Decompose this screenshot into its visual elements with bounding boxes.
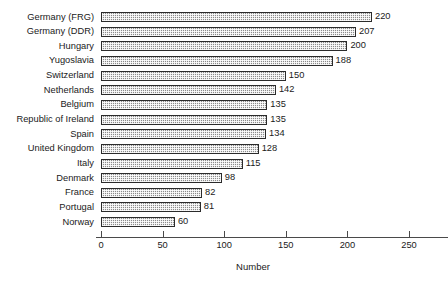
bar-row: 60 — [101, 217, 409, 227]
category-label: France — [0, 187, 94, 197]
bar — [101, 115, 267, 125]
bar-value-label: 135 — [270, 99, 286, 110]
bar — [101, 27, 356, 37]
value-axis-title: Number — [101, 261, 448, 272]
bar — [101, 202, 201, 212]
category-label: Hungary — [0, 41, 94, 51]
bar-value-label: 207 — [359, 26, 375, 37]
category-label: Switzerland — [0, 70, 94, 80]
bar-row: 98 — [101, 173, 409, 183]
category-label: Denmark — [0, 173, 94, 183]
bar-row: 128 — [101, 144, 409, 154]
bar — [101, 71, 286, 81]
bar-row: 135 — [101, 115, 409, 125]
bar-row: 135 — [101, 100, 409, 110]
bar — [101, 129, 266, 139]
axis-tick — [163, 231, 164, 237]
category-label: Italy — [0, 158, 94, 168]
category-label: Germany (FRG) — [0, 12, 94, 22]
bar-row: 115 — [101, 159, 409, 169]
bar-value-label: 128 — [262, 143, 278, 154]
bar-value-label: 98 — [225, 172, 235, 183]
bar — [101, 173, 222, 183]
bar-chart: Germany (FRG)Germany (DDR)HungaryYugosla… — [0, 0, 448, 285]
bar — [101, 188, 202, 198]
plot-area: 2202072001881501421351351341281159882816… — [101, 0, 448, 285]
axis-tick-label: 50 — [143, 240, 183, 251]
category-label: Belgium — [0, 99, 94, 109]
bar-row: 150 — [101, 71, 409, 81]
category-label: United Kingdom — [0, 143, 94, 153]
category-label: Republic of Ireland — [0, 114, 94, 124]
bar — [101, 85, 276, 95]
bar-row: 200 — [101, 41, 409, 51]
axis-tick-label: 0 — [81, 240, 121, 251]
bar — [101, 144, 259, 154]
bar-row: 82 — [101, 188, 409, 198]
axis-tick — [409, 231, 410, 237]
bar — [101, 12, 372, 22]
bar-value-label: 200 — [350, 40, 366, 51]
bar-row: 142 — [101, 85, 409, 95]
axis-tick-label: 250 — [389, 240, 429, 251]
axis-tick-label: 100 — [204, 240, 244, 251]
category-label: Germany (DDR) — [0, 26, 94, 36]
bar — [101, 159, 243, 169]
bar — [101, 217, 175, 227]
bar-row: 81 — [101, 202, 409, 212]
category-label: Yugoslavia — [0, 55, 94, 65]
category-label: Spain — [0, 129, 94, 139]
axis-tick — [224, 231, 225, 237]
bar-value-label: 82 — [205, 187, 215, 198]
category-label: Netherlands — [0, 85, 94, 95]
bar-value-label: 220 — [375, 11, 391, 22]
value-axis-line — [96, 237, 448, 238]
bar — [101, 41, 347, 51]
category-label: Norway — [0, 217, 94, 227]
bar-value-label: 115 — [246, 158, 261, 169]
bar-value-label: 134 — [269, 128, 285, 139]
axis-tick-label: 200 — [327, 240, 367, 251]
bar — [101, 56, 333, 66]
bar-value-label: 60 — [178, 216, 188, 227]
axis-tick — [347, 231, 348, 237]
bar-value-label: 188 — [336, 55, 352, 66]
bar-row: 188 — [101, 56, 409, 66]
bar — [101, 100, 267, 110]
bar-row: 207 — [101, 27, 409, 37]
axis-tick — [286, 231, 287, 237]
axis-tick-label: 150 — [266, 240, 306, 251]
bar-value-label: 142 — [279, 84, 295, 95]
axis-tick — [101, 231, 102, 237]
category-label: Portugal — [0, 202, 94, 212]
bar-value-label: 135 — [270, 114, 286, 125]
bar-value-label: 81 — [204, 201, 214, 212]
value-axis-title-text: Number — [236, 261, 270, 272]
bar-value-label: 150 — [289, 70, 305, 81]
bar-row: 220 — [101, 12, 409, 22]
bar-row: 134 — [101, 129, 409, 139]
